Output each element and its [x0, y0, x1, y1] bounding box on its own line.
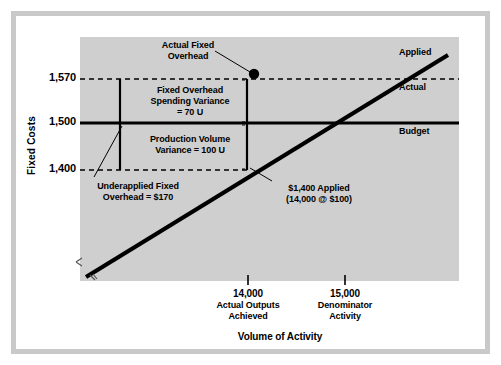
annotation-actual-fixed-overhead-line1: Actual Fixed [140, 40, 236, 51]
legend-label-applied: Applied [399, 47, 459, 58]
xtick-sublabel-14000-line1: Actual Outputs [198, 300, 298, 311]
x-axis-title: Volume of Activity [180, 331, 380, 342]
annotation-actual-fixed-overhead-line2: Overhead [140, 51, 236, 62]
annotation-production-volume-variance-line2: Variance = 100 U [138, 145, 242, 156]
fixed-overhead-variance-chart: Fixed Costs 1,570 1,500 1,400 Actual Fix… [0, 0, 501, 365]
xtick-label-15000: 15,000 [297, 288, 393, 299]
xtick-sublabel-15000-line1: Denominator [297, 300, 393, 311]
annotation-spending-variance-line2: Spending Variance [138, 96, 242, 107]
plot-area [80, 37, 459, 281]
y-axis-title: Fixed Costs [26, 101, 37, 191]
annotation-production-volume-variance-line1: Production Volume [138, 134, 242, 145]
ytick-label-1500: 1,500 [26, 116, 76, 127]
legend-label-actual: Actual [399, 82, 459, 93]
annotation-spending-variance-line1: Fixed Overhead [138, 85, 242, 96]
annotation-applied-amount-line2: (14,000 @ $100) [264, 194, 374, 205]
xtick-label-14000: 14,000 [198, 288, 298, 299]
xtick-sublabel-15000-line2: Activity [297, 311, 393, 322]
ytick-label-1400: 1,400 [26, 163, 76, 174]
annotation-applied-amount-line1: $1,400 Applied [264, 183, 374, 194]
annotation-underapplied-line1: Underapplied Fixed [82, 181, 194, 192]
annotation-spending-variance-line3: = 70 U [138, 107, 242, 118]
legend-label-budget: Budget [399, 126, 459, 137]
xtick-sublabel-14000-line2: Achieved [198, 311, 298, 322]
annotation-underapplied-line2: Overhead = $170 [82, 192, 194, 203]
ytick-label-1570: 1,570 [26, 72, 76, 83]
